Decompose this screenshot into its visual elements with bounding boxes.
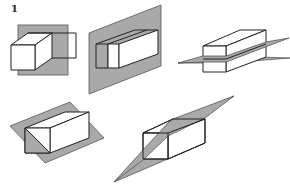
panel-b-box-parallelogram-plane xyxy=(89,5,161,94)
panel-c-box-horizontal-plane xyxy=(178,30,290,72)
figure-canvas xyxy=(0,0,290,189)
panel-d-box-tilted-plane xyxy=(10,102,104,163)
panel-e-box-oblique-plane xyxy=(114,96,234,182)
panel-a-box-vertical-plane xyxy=(11,25,76,75)
